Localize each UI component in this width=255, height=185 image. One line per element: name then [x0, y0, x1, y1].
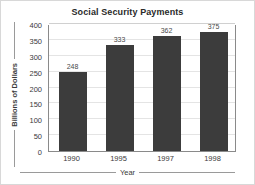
y-axis-tick-labels: 050100150200250300350400	[0, 25, 46, 152]
y-axis-tick-label: 250	[29, 68, 42, 77]
y-axis-tick-label: 100	[29, 116, 42, 125]
bar-value-label: 362	[161, 27, 173, 34]
x-axis-tick-label: 1990	[63, 154, 80, 163]
x-axis-tick-labels: 1990199519971998	[48, 154, 236, 166]
bar	[200, 32, 228, 151]
bar-value-label: 375	[208, 23, 220, 30]
bars-layer: 248333362375	[49, 25, 235, 151]
chart-title: Social Security Payments	[0, 7, 255, 17]
y-axis-tick-label: 150	[29, 100, 42, 109]
bar-value-label: 248	[67, 63, 79, 70]
bar	[153, 36, 181, 151]
x-axis-tick-label: 1997	[157, 154, 174, 163]
x-axis-title-label: Year	[120, 168, 135, 177]
bar-chart: Social Security Payments Billions of Dol…	[0, 0, 255, 185]
x-axis-title-rule-left	[20, 172, 116, 173]
x-axis-title-rule-right	[139, 172, 235, 173]
y-axis-tick-label: 200	[29, 84, 42, 93]
x-axis-title: Year	[20, 166, 235, 178]
bar-group: 362	[143, 25, 190, 151]
bar	[59, 72, 87, 151]
x-axis-tick-label: 1995	[110, 154, 127, 163]
y-axis-tick-label: 50	[34, 132, 42, 141]
bar	[106, 45, 134, 151]
bar-group: 248	[49, 25, 96, 151]
y-axis-tick-label: 400	[29, 21, 42, 30]
plot-area: 248333362375	[48, 25, 236, 152]
y-axis-tick-label: 300	[29, 52, 42, 61]
x-axis-tick-label: 1998	[204, 154, 221, 163]
bar-group: 333	[96, 25, 143, 151]
bar-group: 375	[190, 25, 237, 151]
y-axis-tick-label: 350	[29, 36, 42, 45]
bar-value-label: 333	[114, 36, 126, 43]
y-axis-tick-label: 0	[38, 148, 42, 157]
